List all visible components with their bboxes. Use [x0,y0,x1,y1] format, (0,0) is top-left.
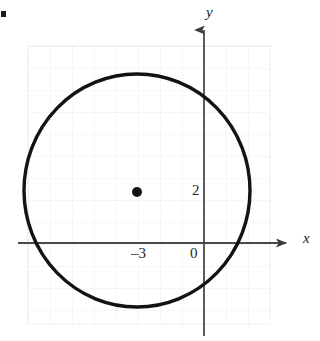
coordinate-plane-plot [0,0,320,341]
graph-figure: y x 2 0 –3 [0,0,320,341]
center-point-marker [132,187,142,197]
grid-background [28,46,270,324]
origin-label: 0 [190,245,198,262]
x-tick-label-minus-3: –3 [131,245,146,262]
y-tick-label-2: 2 [192,182,200,199]
x-axis-label: x [303,230,310,247]
y-axis-label: y [206,4,213,21]
bullet-marker-icon [1,11,6,17]
